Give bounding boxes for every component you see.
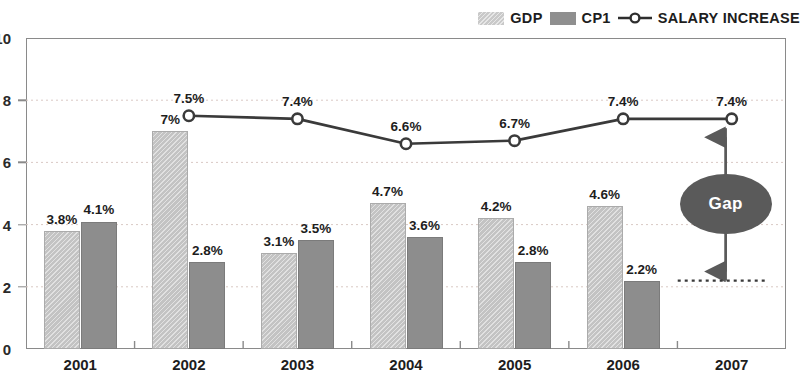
bar-gdp-value-label: 4.2% — [481, 199, 512, 214]
bar-gdp-value-label: 3.1% — [264, 234, 295, 249]
bar-gdp-value-label: 3.8% — [46, 212, 77, 227]
x-axis-tick-label: 2005 — [498, 356, 531, 373]
x-axis-tick-label: 2006 — [606, 356, 639, 373]
bar-cp1-value-label: 3.6% — [409, 218, 440, 233]
legend-item-gdp: GDP — [478, 11, 542, 26]
legend-item-salary-increase: SALARY INCREASE — [618, 11, 800, 26]
legend-swatch-cp1 — [550, 12, 576, 25]
plot-area: 3.8%4.1%7%2.8%3.1%3.5%4.7%3.6%4.2%2.8%4.… — [26, 38, 786, 349]
x-axis-tick-label: 2001 — [64, 356, 97, 373]
y-axis-tick-label: 2 — [0, 278, 11, 295]
salary-increase-value-label: 7.5% — [173, 91, 204, 106]
y-axis-tick-mark — [18, 224, 26, 225]
bar-cp1-value-label: 2.2% — [626, 262, 657, 277]
salary-increase-value-label: 7.4% — [608, 94, 639, 109]
chart-legend: GDP CP1 SALARY INCREASE — [480, 6, 800, 30]
x-axis-tick-label: 2002 — [172, 356, 205, 373]
bar-cp1-value-label: 2.8% — [192, 243, 223, 258]
bar-gdp-value-label: 4.6% — [589, 187, 620, 202]
legend-swatch-gdp — [478, 12, 504, 25]
x-axis-tick-label: 2003 — [281, 356, 314, 373]
legend-item-cp1: CP1 — [550, 11, 611, 26]
legend-label-cp1: CP1 — [582, 11, 611, 26]
bar-cp1-value-label: 3.5% — [301, 221, 332, 236]
bar-cp1-value-label: 2.8% — [518, 243, 549, 258]
salary-increase-value-label: 7.4% — [716, 94, 747, 109]
y-axis-tick-label: 8 — [0, 92, 11, 109]
y-axis-tick-label: 0 — [0, 341, 11, 358]
bar-gdp-value-label: 4.7% — [372, 184, 403, 199]
y-axis-tick-label: 4 — [0, 216, 11, 233]
gap-arrow-annotation — [26, 38, 786, 349]
y-axis-tick-label: 6 — [0, 154, 11, 171]
bar-cp1-value-label: 4.1% — [83, 202, 114, 217]
x-axis-tick-label: 2007 — [715, 356, 748, 373]
y-axis-tick-mark — [18, 99, 26, 100]
legend-line-marker-icon — [618, 11, 652, 25]
y-axis-tick-mark — [18, 286, 26, 287]
chart-root: GDP CP1 SALARY INCREASE 0246810 3.8%4.1%… — [0, 0, 803, 392]
legend-label-salary-increase: SALARY INCREASE — [658, 11, 800, 26]
y-axis-tick-label: 10 — [0, 30, 11, 47]
bar-gdp-value-label: 7% — [161, 112, 181, 127]
x-axis-tick-label: 2004 — [389, 356, 422, 373]
salary-increase-value-label: 6.7% — [499, 116, 530, 131]
y-axis-tick-mark — [18, 162, 26, 163]
gap-ellipse: Gap — [680, 174, 772, 234]
gap-label: Gap — [709, 194, 743, 214]
legend-label-gdp: GDP — [510, 11, 542, 26]
salary-increase-value-label: 6.6% — [391, 119, 422, 134]
salary-increase-value-label: 7.4% — [282, 94, 313, 109]
